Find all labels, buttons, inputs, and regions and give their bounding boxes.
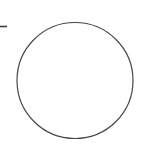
drawing-canvas — [0, 0, 142, 146]
figure-svg — [0, 0, 142, 146]
canvas-background — [0, 0, 142, 146]
